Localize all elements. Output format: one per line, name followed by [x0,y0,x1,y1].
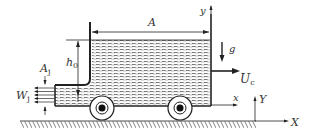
gravity-label: g [229,43,235,54]
tank-cart-diagram: A h0 Aj Wj y x g [0,0,311,138]
jet-velocity-arrows [34,87,54,104]
local-x-axis: x [211,92,239,107]
local-y-label: y [199,5,206,16]
wheel-front [90,96,114,120]
local-x-label: x [233,92,239,103]
cart-velocity-arrow: Uc [211,68,255,87]
jet-area-dimension: Aj [39,62,50,115]
global-x-axis: X [255,116,300,129]
tank-area-dimension: A [92,16,209,34]
height-label: h0 [66,56,78,70]
tank-area-label: A [147,16,156,29]
global-x-label: X [290,116,300,129]
gravity-arrow: g [220,42,236,62]
jet-velocity-label: Wj [16,89,30,103]
wheel-rear [168,96,192,120]
cart-velocity-label: Uc [240,72,255,87]
global-y-label: Y [259,93,268,106]
jet-area-label: Aj [39,62,50,76]
global-y-axis: Y [254,93,269,121]
ground [20,121,256,128]
